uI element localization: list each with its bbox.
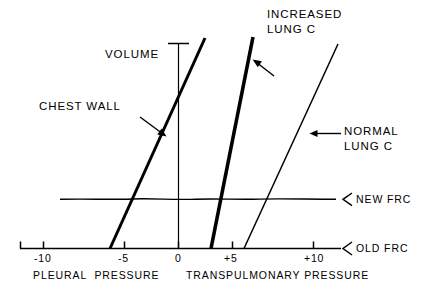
x-axis-left-title: PLEURAL PRESSURE — [33, 269, 159, 281]
increased-lung-label-line1: INCREASED — [267, 8, 342, 22]
new-frc-label: NEW FRC — [356, 193, 411, 205]
normal-lung-label-line1: NORMAL — [344, 125, 399, 139]
chest-wall-annotation-arrow-icon — [140, 117, 167, 137]
x-axis-right-title: TRANSPULMONARY PRESSURE — [186, 269, 369, 281]
old-frc-axis-group — [20, 242, 352, 256]
normal-lung-annotation-arrow-icon — [310, 130, 342, 137]
tick-label--5: -5 — [118, 252, 129, 264]
new-frc-line — [60, 199, 336, 200]
increased-lung-label-line2: LUNG C — [267, 23, 316, 37]
curve-increased-lung-compliance — [211, 37, 253, 249]
volume-axis-group — [168, 43, 189, 249]
tick-label--10: -10 — [34, 252, 52, 264]
chest-wall-label: CHEST WALL — [39, 100, 121, 114]
curve-normal-lung-compliance — [244, 44, 338, 249]
new-frc-arrow-icon — [343, 193, 352, 206]
tick-label-+10: +10 — [304, 252, 324, 264]
tick-label-+5: +5 — [224, 252, 238, 264]
increased-lung-annotation-arrow-icon — [253, 59, 274, 76]
normal-lung-label-line2: LUNG C — [344, 140, 393, 154]
curve-chest-wall — [110, 38, 205, 249]
old-frc-label: OLD FRC — [356, 242, 408, 254]
volume-axis-label: VOLUME — [105, 48, 159, 62]
old-frc-arrow-icon — [343, 242, 352, 255]
tick-label-0: 0 — [175, 252, 182, 264]
new-frc-axis-group — [60, 193, 352, 206]
